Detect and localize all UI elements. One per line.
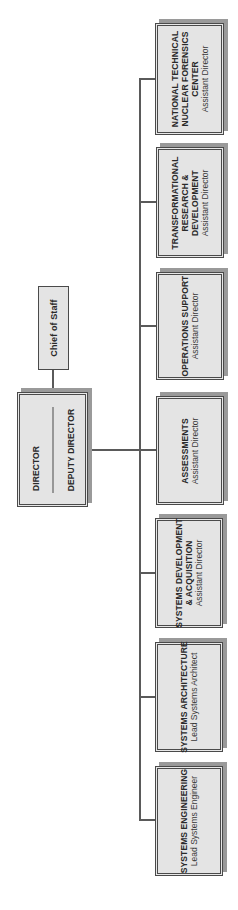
chief-of-staff-title: Chief of Staff <box>49 299 59 356</box>
unit-role: Assistant Director <box>200 31 210 127</box>
director-box: DIRECTOR DEPUTY DIRECTOR <box>17 392 88 507</box>
unit-connector-6 <box>139 696 156 698</box>
unit-role: Assistant Director <box>190 417 200 484</box>
director-divider <box>52 407 53 493</box>
unit-role: Assistant Director <box>190 276 200 377</box>
unit-box-operations-support: OPERATIONS SUPPORT Assistant Director <box>156 272 224 380</box>
unit-connector-5 <box>139 572 156 574</box>
unit-title-line: SYSTEMS DEVELOPMENT <box>174 518 184 628</box>
unit-box-transformational-rd: TRANSFORMATIONAL RESEARCH & DEVELOPMENT … <box>156 147 224 258</box>
deputy-director-title: DEPUTY DIRECTOR <box>65 407 75 493</box>
unit-role: Assistant Director <box>200 156 210 249</box>
unit-title-line: & ACQUISITION <box>184 518 194 628</box>
director-title: DIRECTOR <box>30 407 40 493</box>
chief-of-staff-box: Chief of Staff <box>38 286 69 370</box>
unit-role: Lead Systems Architect <box>189 641 199 753</box>
unit-connector-3 <box>139 325 156 327</box>
unit-title-line: SYSTEMS ENGINEERING <box>179 769 189 873</box>
unit-title-line: TRANSFORMATIONAL <box>170 156 180 249</box>
unit-box-nuclear-forensics: NATIONAL TECHNICAL NUCLEAR FORENSICS CEN… <box>155 23 224 135</box>
unit-connector-2 <box>139 201 156 203</box>
unit-role: Assistant Director <box>194 518 204 628</box>
unit-connector-4 <box>139 449 156 451</box>
unit-title-line: CENTER <box>190 31 200 127</box>
unit-title-line: NUCLEAR FORENSICS <box>180 31 190 127</box>
unit-title-line: SYSTEMS ARCHITECTURE <box>179 641 189 753</box>
unit-title-line: DEVELOPMENT <box>190 156 200 249</box>
unit-connector-1 <box>139 78 156 80</box>
unit-box-assessments: ASSESSMENTS Assistant Director <box>156 396 224 505</box>
unit-connector-7 <box>139 819 156 821</box>
unit-title-line: NATIONAL TECHNICAL <box>170 31 180 127</box>
unit-title-line: OPERATIONS SUPPORT <box>180 276 190 377</box>
unit-role: Lead Systems Engineer <box>189 769 199 873</box>
unit-title-line: ASSESSMENTS <box>180 417 190 484</box>
director-to-bus-connector <box>88 449 140 451</box>
unit-title-line: RESEARCH & <box>180 156 190 249</box>
unit-box-systems-development-acquisition: SYSTEMS DEVELOPMENT & ACQUISITION Assist… <box>155 518 223 628</box>
unit-box-systems-engineering: SYSTEMS ENGINEERING Lead Systems Enginee… <box>155 766 223 876</box>
unit-box-systems-architecture: SYSTEMS ARCHITECTURE Lead Systems Archit… <box>155 642 223 752</box>
